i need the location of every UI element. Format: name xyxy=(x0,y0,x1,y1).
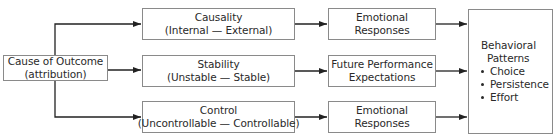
control-box: Control (Uncontrollable — Controllable) xyxy=(142,101,295,133)
consequence-line1: Emotional xyxy=(356,104,408,117)
cause-of-outcome-box: Cause of Outcome (attribution) xyxy=(3,55,108,81)
dimension-title: Control xyxy=(200,104,237,117)
causality-box: Causality (Internal — External) xyxy=(142,8,295,40)
dimension-range: (Uncontrollable — Controllable) xyxy=(138,117,300,130)
consequence-line1: Emotional xyxy=(356,11,408,24)
consequence-line2: Responses xyxy=(355,24,410,37)
emotional-responses-box-2: Emotional Responses xyxy=(328,101,436,133)
outcome-subtitle: Patterns xyxy=(481,52,529,65)
cause-title: Cause of Outcome xyxy=(8,55,103,68)
consequence-line2: Expectations xyxy=(349,71,416,84)
outcome-title: Behavioral xyxy=(481,39,536,52)
behavioral-patterns-box: Behavioral Patterns Choice Persistence E… xyxy=(468,9,553,134)
behavior-item: Choice xyxy=(481,65,549,78)
dimension-range: (Internal — External) xyxy=(165,24,272,37)
behavior-list: Choice Persistence Effort xyxy=(481,65,549,104)
dimension-title: Causality xyxy=(195,11,243,24)
dimension-title: Stability xyxy=(197,58,239,71)
behavior-item: Persistence xyxy=(481,78,549,91)
consequence-line1: Future Performance xyxy=(331,58,433,71)
behavior-item: Effort xyxy=(481,91,549,104)
stability-box: Stability (Unstable — Stable) xyxy=(142,55,295,87)
dimension-range: (Unstable — Stable) xyxy=(167,71,270,84)
future-performance-box: Future Performance Expectations xyxy=(328,55,436,87)
consequence-line2: Responses xyxy=(355,117,410,130)
emotional-responses-box-1: Emotional Responses xyxy=(328,8,436,40)
cause-subtitle: (attribution) xyxy=(24,68,86,81)
